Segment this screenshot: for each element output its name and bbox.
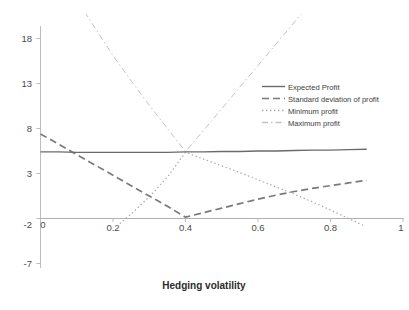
plot-background	[0, 0, 409, 310]
x-tick-label-0: 0	[40, 219, 45, 230]
x-axis-title: Hedging volatility	[162, 280, 246, 291]
chart-figure: 18 13 8 3 -2 -7 0 0.2 0.4 0.6 0.8 1 Hedg…	[0, 0, 409, 310]
line-chart-plot: 18 13 8 3 -2 -7 0 0.2 0.4 0.6 0.8 1 Hedg…	[0, 0, 409, 310]
x-tick-label-1: 1	[398, 222, 403, 233]
legend-label-minimum-profit: Minimum profit	[288, 107, 339, 116]
y-tick-label-18: 18	[21, 33, 32, 44]
y-tick-label-8: 8	[27, 123, 32, 134]
y-tick-label-13: 13	[21, 78, 32, 89]
x-tick-label-0.8: 0.8	[324, 222, 337, 233]
legend-label-maximum-profit: Maximum profit	[288, 119, 341, 128]
y-tick-label-3: 3	[27, 168, 32, 179]
y-tick-label-minus2: -2	[24, 219, 32, 230]
x-tick-label-0.2: 0.2	[106, 222, 119, 233]
legend-label-expected-profit: Expected Profit	[288, 83, 340, 92]
legend-label-standard-deviation: Standard deviation of profit	[288, 95, 380, 104]
x-tick-label-0.6: 0.6	[251, 222, 264, 233]
y-tick-label-minus7: -7	[24, 258, 32, 269]
x-tick-label-0.4: 0.4	[179, 222, 192, 233]
